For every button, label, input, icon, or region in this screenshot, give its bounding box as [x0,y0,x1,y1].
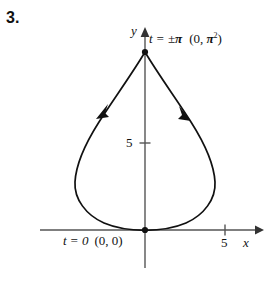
origin-annotation: t = 0(0, 0) [63,234,123,247]
y-axis-label: y [131,24,137,37]
parametric-curve-plot [0,0,270,297]
origin-parameter-text: t = 0 [63,233,88,248]
cusp-coordinate-pi-symbol: π [206,31,213,46]
x-tick-label-5: 5 [221,236,228,249]
cusp-parameter-pi-symbol: π [175,31,182,46]
direction-arrow-right [178,106,191,121]
cusp-coordinate-open: (0, [189,31,206,46]
direction-arrow-left [96,104,109,119]
origin-point-marker [142,227,148,233]
y-tick-label-5: 5 [126,136,133,149]
figure-container: 3. y t = ±π(0, π2) t = 0(0, 0) [0,0,270,297]
cusp-point-marker [142,49,148,55]
cusp-coordinate-close: ) [218,31,222,46]
cusp-parameter-text: t = ± [149,31,175,46]
cusp-annotation: t = ±π(0, π2) [149,32,222,45]
origin-coordinate: (0, 0) [94,233,122,248]
cusp-coordinate: (0, π2) [189,31,222,46]
x-axis-label: x [243,236,249,249]
